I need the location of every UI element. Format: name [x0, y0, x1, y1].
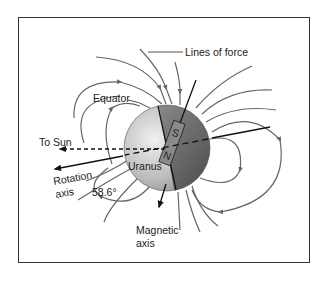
angle-label: 58.6° — [92, 186, 117, 198]
rotation-axis-label-line2: axis — [54, 185, 74, 200]
rotation-axis-label-line1: Rotation — [52, 168, 93, 187]
to-sun-label: To Sun — [39, 136, 72, 148]
rotation-axis-line-right — [212, 127, 270, 138]
planet-uranus — [124, 100, 230, 200]
uranus-magnetic-field-diagram: S N Lines of force Equator To Sun Uranus… — [0, 0, 327, 281]
planet-label: Uranus — [128, 160, 162, 172]
lines-of-force-label: Lines of force — [185, 46, 248, 58]
rotation-axis-arrow — [55, 156, 123, 169]
magnetic-axis-label-line2: axis — [136, 237, 155, 249]
equator-label: Equator — [93, 92, 130, 104]
magnetic-axis-label-line1: Magnetic — [136, 224, 179, 236]
